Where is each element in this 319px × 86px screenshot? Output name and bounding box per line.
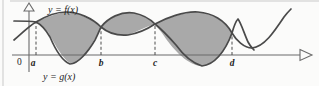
figure-canvas: y = f(x) y = g(x) 0 a b c d	[0, 0, 319, 86]
tick-label-c: c	[153, 58, 158, 68]
curve-f-label: y = f(x)	[47, 4, 79, 16]
tick-label-b: b	[99, 58, 104, 68]
tick-label-a: a	[31, 58, 36, 68]
origin-label: 0	[17, 57, 22, 67]
shaded-regions	[36, 12, 232, 66]
tick-label-d: d	[230, 58, 235, 68]
curve-g-label: y = g(x)	[42, 71, 76, 83]
area-between-curves-figure: y = f(x) y = g(x) 0 a b c d	[0, 0, 319, 86]
y-axis-arrow-icon	[24, 3, 34, 11]
x-axis-arrow-icon	[300, 50, 312, 61]
